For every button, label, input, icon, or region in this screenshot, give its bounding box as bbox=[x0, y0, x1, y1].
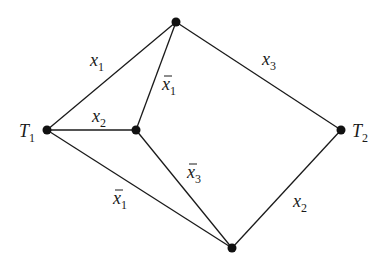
graph-diagram: T1 T2 x1 x1 x3 x2 x3 x1 x2 bbox=[0, 0, 389, 273]
node-t2 bbox=[337, 126, 346, 135]
svg-text:x1: x1 bbox=[161, 74, 176, 98]
node-top bbox=[172, 18, 181, 27]
svg-text:x1: x1 bbox=[112, 188, 127, 212]
edge-mid-bottom bbox=[136, 130, 232, 248]
node-label-t1: T1 bbox=[19, 121, 35, 145]
edge-label-notx1-bottom: x1 bbox=[112, 188, 127, 212]
edge-label-x3: x3 bbox=[261, 49, 276, 73]
edge-label-x2-mid: x2 bbox=[91, 106, 106, 130]
svg-text:x3: x3 bbox=[186, 162, 201, 186]
node-label-t2: T2 bbox=[352, 121, 368, 145]
node-bottom bbox=[228, 244, 237, 253]
node-t1 bbox=[43, 126, 52, 135]
edge-label-notx3: x3 bbox=[186, 162, 201, 186]
node-mid bbox=[132, 126, 141, 135]
edge-label-notx1-mid: x1 bbox=[161, 74, 176, 98]
edge-top-t2 bbox=[176, 22, 341, 130]
edge-t1-bottom bbox=[47, 130, 232, 248]
edge-label-x1-top: x1 bbox=[89, 50, 104, 74]
edge-label-x2-right: x2 bbox=[292, 191, 307, 215]
edge-t2-bottom bbox=[232, 130, 341, 248]
